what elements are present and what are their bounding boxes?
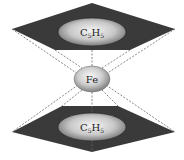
top-cyclopentadienyl-ring: C5H5: [12, 3, 175, 50]
bottom-cyclopentadienyl-ring: C5H5: [12, 106, 175, 152]
fe-label: Fe: [86, 74, 98, 85]
ferrocene-diagram: C5H5 C5H5 Fe: [0, 0, 184, 160]
iron-atom: Fe: [74, 66, 110, 92]
